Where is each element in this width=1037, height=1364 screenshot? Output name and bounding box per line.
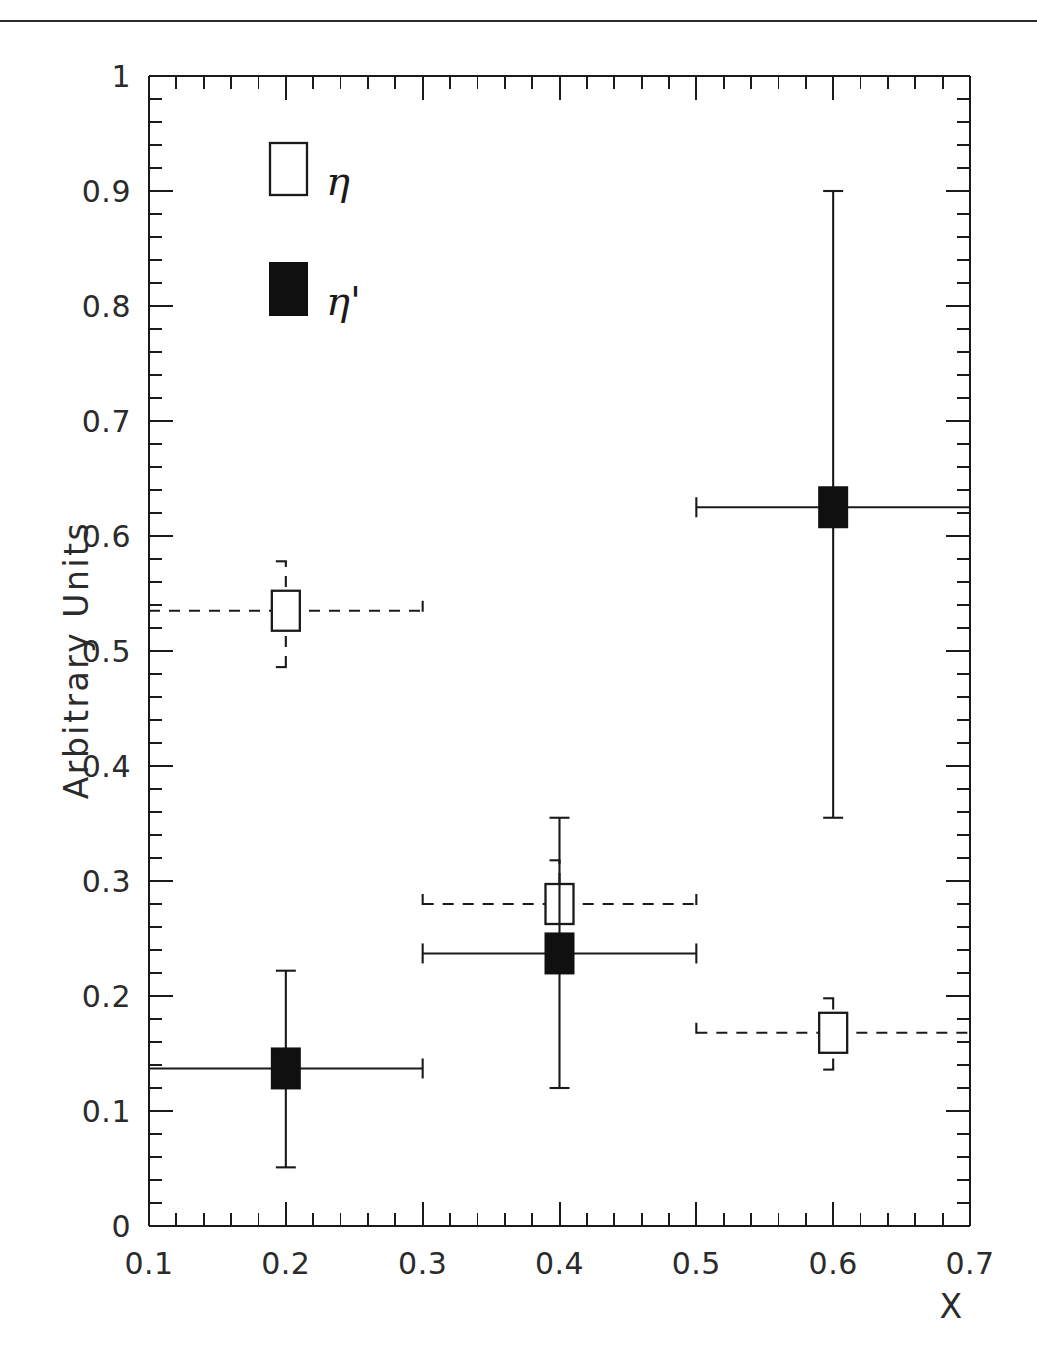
legend-label-eta: η <box>326 158 350 204</box>
x-tick-label: 0.6 <box>809 1246 858 1281</box>
y-tick-label: 0.1 <box>82 1094 131 1129</box>
y-tick-label: 0 <box>111 1209 131 1244</box>
legend-swatch-eta <box>270 143 307 195</box>
marker-eta <box>272 591 300 631</box>
y-tick-label: 0.9 <box>82 174 131 209</box>
y-tick-label: 0.7 <box>82 404 131 439</box>
x-tick-label: 0.2 <box>261 1246 310 1281</box>
marker-eta-prime <box>819 487 847 527</box>
x-tick-label: 0.5 <box>672 1246 721 1281</box>
x-tick-label: 0.4 <box>535 1246 584 1281</box>
y-tick-label: 1 <box>111 59 131 94</box>
x-tick-label: 0.3 <box>398 1246 447 1281</box>
figure-root: 00.10.20.30.40.50.60.70.80.91 0.10.20.30… <box>0 0 1037 1364</box>
scatter-plot-canvas: 00.10.20.30.40.50.60.70.80.91 0.10.20.30… <box>0 0 1037 1364</box>
x-tick-label: 0.1 <box>124 1246 173 1281</box>
marker-eta <box>819 1013 847 1053</box>
y-tick-label: 0.8 <box>82 289 131 324</box>
x-axis-title: X <box>939 1287 964 1326</box>
y-axis-title: Arbitrary Units <box>57 521 96 799</box>
marker-eta-prime <box>272 1048 300 1088</box>
y-tick-label: 0.3 <box>82 864 131 899</box>
plot-background <box>0 0 1037 1364</box>
legend-label-eta-prime: η' <box>326 278 361 324</box>
legend-swatch-eta-prime <box>270 263 307 315</box>
marker-eta-prime <box>546 933 574 973</box>
y-tick-label: 0.2 <box>82 979 131 1014</box>
x-tick-label: 0.7 <box>945 1246 994 1281</box>
